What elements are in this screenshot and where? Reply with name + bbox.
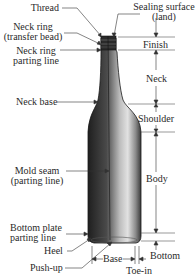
label-mold-seam-line2: (parting line) <box>8 176 66 186</box>
label-neck-ring-line2: (transfer bead) <box>2 32 64 42</box>
label-bottom-plate-line2: parting line <box>10 233 62 243</box>
finish <box>101 36 116 50</box>
label-bottom: Bottom <box>150 251 180 261</box>
label-finish: Finish <box>143 40 168 50</box>
label-sealing-surface: Sealing surface (land) <box>133 2 195 22</box>
label-push-up: Push-up <box>30 263 63 273</box>
label-neck-ring: Neck ring (transfer bead) <box>2 22 64 42</box>
label-neck-base: Neck base <box>16 97 57 107</box>
label-sealing-surface-line2: (land) <box>133 12 195 22</box>
label-body: Body <box>146 174 168 184</box>
label-thread: Thread <box>31 3 59 13</box>
bottle-outline <box>88 38 141 243</box>
label-neck-ring-parting-line2: parting line <box>10 56 62 66</box>
label-bottom-plate-parting-line: Bottom plate parting line <box>10 223 62 243</box>
label-neck: Neck <box>146 74 167 84</box>
label-toe-in: Toe-in <box>126 266 152 276</box>
label-neck-ring-parting-line: Neck ring parting line <box>10 46 62 66</box>
label-heel: Heel <box>44 246 63 256</box>
label-base: Base <box>103 254 122 264</box>
label-shoulder: Shoulder <box>138 114 174 124</box>
label-mold-seam: Mold seam (parting line) <box>8 166 66 186</box>
